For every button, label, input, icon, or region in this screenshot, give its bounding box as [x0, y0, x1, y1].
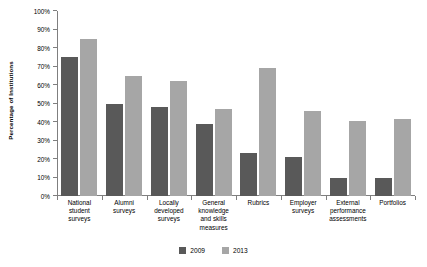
- x-axis-tick: [415, 196, 416, 200]
- category-label-line: performance: [326, 207, 371, 215]
- category-label-line: developed: [147, 207, 192, 215]
- bar-2013-5: [304, 111, 321, 196]
- legend-label: 2009: [190, 247, 205, 254]
- category-label-line: Rubrics: [236, 199, 281, 207]
- legend-swatch-icon: [222, 247, 229, 254]
- y-axis-tick-label: 40%: [37, 118, 50, 125]
- y-axis-tick-label: 80%: [37, 44, 50, 51]
- bar-2009-6: [330, 178, 347, 196]
- y-axis-title-text: Percentage of Institutions: [7, 61, 14, 140]
- y-axis-tick-label: 100%: [34, 7, 50, 14]
- y-axis-tick-label: 90%: [37, 26, 50, 33]
- x-axis-category-labels: NationalstudentsurveysAlumnisurveysLocal…: [57, 199, 415, 244]
- bar-2013-1: [125, 76, 142, 196]
- legend-label: 2013: [233, 247, 248, 254]
- x-axis-category-label: Rubrics: [236, 199, 281, 207]
- bar-2013-0: [80, 39, 97, 196]
- category-label-line: Portfolios: [370, 199, 415, 207]
- category-label-line: and skills: [191, 215, 236, 223]
- bar-2009-1: [106, 104, 123, 197]
- category-label-line: Alumni: [102, 199, 147, 207]
- legend-item-2013[interactable]: 2013: [222, 247, 248, 254]
- plot-area: 0%10%20%30%40%50%60%70%80%90%100%: [57, 11, 415, 196]
- x-axis-category-label: Employersurveys: [281, 199, 326, 215]
- category-label-line: surveys: [102, 207, 147, 215]
- bar-2013-4: [259, 68, 276, 196]
- x-axis-category-label: Externalperformanceassessments: [326, 199, 371, 224]
- category-label-line: National: [57, 199, 102, 207]
- bar-2009-5: [285, 157, 302, 196]
- category-label-line: Employer: [281, 199, 326, 207]
- x-axis-category-label: Portfolios: [370, 199, 415, 207]
- y-axis-title: Percentage of Institutions: [0, 0, 20, 200]
- legend-item-2009[interactable]: 2009: [179, 247, 205, 254]
- bar-2013-2: [170, 81, 187, 196]
- category-label-line: Locally: [147, 199, 192, 207]
- y-axis-tick-label: 20%: [37, 155, 50, 162]
- y-axis-tick-label: 50%: [37, 100, 50, 107]
- x-axis-category-label: Alumnisurveys: [102, 199, 147, 215]
- category-label-line: surveys: [57, 215, 102, 223]
- chart-legend: 20092013: [0, 247, 427, 254]
- bar-2013-6: [349, 121, 366, 196]
- category-label-line: student: [57, 207, 102, 215]
- bar-chart: Percentage of Institutions 0%10%20%30%40…: [0, 0, 427, 267]
- category-label-line: surveys: [281, 207, 326, 215]
- y-axis-tick-label: 60%: [37, 81, 50, 88]
- bar-2009-0: [61, 57, 78, 196]
- category-label-line: General: [191, 199, 236, 207]
- bar-2009-4: [240, 153, 257, 196]
- y-axis-tick-label: 30%: [37, 137, 50, 144]
- x-axis-category-label: Generalknowledgeand skillsmeasures: [191, 199, 236, 232]
- x-axis-category-label: Nationalstudentsurveys: [57, 199, 102, 224]
- bar-2013-3: [215, 109, 232, 196]
- category-label-line: measures: [191, 224, 236, 232]
- category-label-line: External: [326, 199, 371, 207]
- category-label-line: surveys: [147, 215, 192, 223]
- y-axis-tick-label: 70%: [37, 63, 50, 70]
- bars-layer: [57, 11, 415, 196]
- x-axis-category-label: Locallydevelopedsurveys: [147, 199, 192, 224]
- category-label-line: knowledge: [191, 207, 236, 215]
- category-label-line: assessments: [326, 215, 371, 223]
- bar-2009-3: [196, 124, 213, 196]
- bar-2009-2: [151, 107, 168, 196]
- y-axis-tick-label: 10%: [37, 174, 50, 181]
- bar-2013-7: [394, 119, 411, 196]
- y-axis-tick-label: 0%: [41, 192, 50, 199]
- bar-2009-7: [375, 178, 392, 196]
- legend-swatch-icon: [179, 247, 186, 254]
